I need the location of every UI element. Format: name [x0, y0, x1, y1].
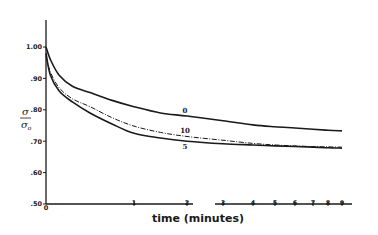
x-axis-ticks: 0123456789: [44, 199, 345, 212]
y-axis-title-numerator: σ: [22, 106, 30, 117]
x-tick-label: 2: [185, 199, 190, 207]
x-tick-label: 6: [293, 199, 298, 207]
x-tick-label: 1: [132, 199, 137, 207]
y-tick-label: .80: [30, 106, 42, 114]
x-tick-label: 7: [311, 199, 316, 207]
y-tick-label: .60: [30, 169, 42, 177]
curve-0: [46, 47, 342, 131]
x-tick-label: 9: [340, 199, 345, 207]
y-tick-label: .70: [30, 138, 42, 146]
y-tick-label: .50: [30, 200, 42, 208]
curves: [46, 47, 342, 148]
curve-label-0: 0: [183, 106, 188, 115]
curve-label-10: 10: [180, 126, 190, 135]
stress-relaxation-chart: .50.60.70.80.901.00 0123456789 0105 σ σo…: [0, 0, 378, 235]
x-tick-label: 0: [44, 204, 49, 212]
curve-labels: 0105: [180, 106, 190, 151]
y-axis-title-denominator: σo: [21, 119, 32, 131]
axes: [46, 20, 352, 204]
curve-10: [46, 56, 342, 147]
x-tick-label: 8: [326, 199, 331, 207]
curve-5: [46, 53, 342, 148]
x-tick-label: 3: [221, 199, 226, 207]
curve-label-5: 5: [183, 142, 188, 151]
x-tick-label: 4: [251, 199, 256, 207]
x-axis-title: time (minutes): [152, 212, 244, 225]
y-tick-label: .90: [30, 75, 42, 83]
x-tick-label: 5: [273, 199, 278, 207]
y-tick-label: 1.00: [26, 43, 43, 51]
